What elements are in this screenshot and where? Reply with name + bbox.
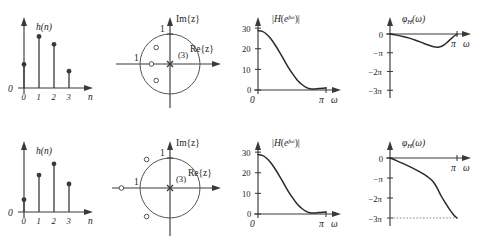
stem-dot [37,34,42,39]
imag-unit-label-nonmin: 1 [160,148,165,158]
x-axis-arrow [84,85,93,91]
mag-ytick-label: 30 [242,24,251,34]
imag-unit-label-min: 1 [160,24,165,34]
real-axis-arrow [212,61,221,67]
phase-ytick-label: 0 [379,30,383,40]
impulse-ylabel-nonmin: h(n) [36,146,52,157]
zero-marker [144,157,149,162]
phase-yticks-nonmin: 0−π−2π−3π [368,154,393,224]
real-unit-label-min: 1 [134,53,139,63]
real-axis-arrow [212,185,221,191]
stem-dot [37,173,42,178]
phase-ytick-label: −π [374,48,384,58]
stem-dot [52,161,57,166]
stem-dot [22,62,27,67]
panel-phase-nonmin: 0−π−2π−3π π ω φH(ω) [358,126,494,244]
mag-ytick-label: 10 [242,65,251,75]
magnitude-curve-nonmin [258,155,326,213]
stem-dot [67,182,72,187]
impulse-axes-min [18,17,93,94]
impulse-xlabel-min: n [88,92,93,102]
mag-pi-label-nonmin: π [319,219,324,229]
svg-text:φH(ω): φH(ω) [402,14,425,25]
phase-xlabel-nonmin: ω [463,163,470,173]
mag-xlabel-min: ω [331,95,338,105]
impulse-xtick-label: 2 [51,92,56,102]
impulse-xtick-label: 2 [51,216,56,226]
zero-marker [154,78,159,83]
impulse-xlabel-nonmin: n [88,216,93,226]
mag-ylabel-nonmin: |H(ejω)| [272,137,300,149]
stem-dot [67,69,72,74]
x-axis-arrow [84,209,93,215]
phase-curve-nonmin [390,158,457,218]
y-axis-arrow [21,17,27,26]
panel-impulse-response-nonmin: 0123 0 h(n) n [2,126,108,244]
phase-curve-min [390,34,457,47]
real-unit-label-nonmin: 1 [134,177,139,187]
mag-origin-label-min: 0 [250,95,255,105]
phase-ylabel-nonmin: φH(ω) [402,138,425,149]
panel-phase-min: 0−π−2π−3π π ω φH(ω) [358,2,494,120]
x-axis-arrow [462,31,471,37]
x-axis-arrow [462,155,471,161]
y-axis-arrow [21,141,27,150]
phase-ytick-label: −π [374,174,384,184]
y-axis-arrow [255,17,261,26]
impulse-xtick-label: 3 [65,92,70,102]
imag-axis-arrow [167,17,173,26]
impulse-xtick-label: 0 [21,216,26,226]
mag-pi-label-min: π [319,95,324,105]
mag-ytick-label: 20 [242,44,251,54]
phase-pi-label-min: π [451,39,456,49]
impulse-xtick-label: 3 [65,216,70,226]
zero-marker [119,186,124,191]
stem-dot [22,197,27,202]
pole-order-label-min: (3) [178,50,188,60]
y-axis-arrow [255,141,261,150]
zero-marker [144,214,149,219]
x-axis-arrow [332,211,341,217]
panel-impulse-response-min: 0123 0 h(n) n [2,2,108,120]
panel-magnitude-min: 0102030 0 π ω |H(ejω)| [232,2,358,120]
mag-ytick-label: 0 [247,85,251,95]
phase-axes-nonmin [386,141,471,226]
imag-axis-label-nonmin: Im{z} [176,138,200,148]
mag-ylabel-min: |H(ejω)| [272,13,300,25]
y-axis-arrow [387,141,393,150]
impulse-xticks-nonmin: 0123 [21,216,70,226]
imag-axis-arrow [167,141,173,150]
impulse-origin-label-min: 0 [8,84,13,94]
impulse-ylabel-min: h(n) [36,22,52,33]
row-minimum-phase: 0123 0 h(n) n [0,2,494,120]
mag-xlabel-nonmin: ω [331,219,338,229]
impulse-xtick-label: 0 [21,92,26,102]
panel-pole-zero-min: (3) 1 1 Im{z} Re{z} [108,2,232,120]
phase-ylabel-min: φH(ω) [402,14,425,25]
x-axis-arrow [332,87,341,93]
phase-pi-label-nonmin: π [451,163,456,173]
phase-axes-min [386,17,471,98]
phase-ytick-label: 0 [379,154,383,164]
impulse-stems-nonmin [22,161,72,212]
real-axis-label-nonmin: Re{z} [188,168,212,178]
impulse-origin-label-nonmin: 0 [8,208,13,218]
mag-ytick-label: 30 [242,148,251,158]
real-axis-label-min: Re{z} [190,44,214,54]
signal-processing-figure: 0123 0 h(n) n [0,0,494,245]
panel-pole-zero-nonmin: (3) 1 1 Im{z} Re{z} [108,126,232,244]
phase-yticks-min: 0−π−2π−3π [368,30,393,96]
panel-magnitude-nonmin: 0102030 0 π ω |H(ejω)| [232,126,358,244]
svg-text:|H(ejω)|: |H(ejω)| [272,137,300,149]
row-non-minimum-phase: 0123 0 h(n) n [0,126,494,244]
mag-origin-label-nonmin: 0 [250,219,255,229]
mag-ytick-label: 10 [242,189,251,199]
impulse-stems-min [22,34,72,88]
mag-ytick-label: 0 [247,209,251,219]
phase-ytick-label: −2π [368,194,382,204]
svg-text:|H(ejω)|: |H(ejω)| [272,13,300,25]
mag-axes-nonmin [254,141,341,218]
zero-marker [149,62,154,67]
stem-dot [52,42,57,47]
mag-ytick-label: 20 [242,168,251,178]
